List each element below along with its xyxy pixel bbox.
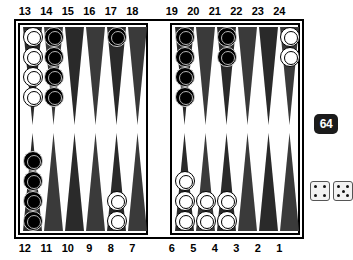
checker-stack-24[interactable] [279,27,300,127]
point-8[interactable] [106,131,127,231]
point-16[interactable] [85,27,106,127]
point-7[interactable] [127,131,148,231]
doubling-cube[interactable]: 64 [314,114,338,134]
checker-black[interactable] [23,191,43,211]
checker-white[interactable] [175,211,195,231]
point-4[interactable] [216,131,237,231]
point-label-9: 9 [79,242,101,254]
checker-ring [27,71,41,85]
checker-black[interactable] [217,47,237,67]
checker-black[interactable] [23,211,43,231]
die-1[interactable] [310,181,330,201]
checker-white[interactable] [175,191,195,211]
die-pip [346,185,349,188]
die-2[interactable] [333,181,353,201]
die-pip [342,190,345,193]
point-15[interactable] [64,27,85,127]
checker-ring [179,215,193,229]
point-3[interactable] [237,131,258,231]
checker-white[interactable] [23,27,43,47]
checker-black[interactable] [175,27,195,47]
point-label-15: 15 [57,5,79,17]
checker-white[interactable] [23,47,43,67]
checker-black[interactable] [23,171,43,191]
checker-stack-8[interactable] [106,131,127,231]
checker-stack-13[interactable] [22,27,43,127]
checker-white[interactable] [217,211,237,231]
center-bar[interactable] [148,23,170,235]
point-22[interactable] [237,27,258,127]
point-24[interactable] [279,27,300,127]
checker-white[interactable] [175,171,195,191]
quadrant-bottom-right [174,129,300,233]
point-label-18: 18 [122,5,144,17]
checker-stack-5[interactable] [195,131,216,231]
checker-black[interactable] [44,67,64,87]
checker-ring [179,71,193,85]
point-10[interactable] [64,131,85,231]
checker-white[interactable] [280,27,300,47]
checker-ring [27,155,41,169]
checker-white[interactable] [196,191,216,211]
point-6[interactable] [174,131,195,231]
checker-white[interactable] [107,191,127,211]
point-label-11: 11 [36,242,58,254]
quadrant-bottom-left [22,129,148,233]
checker-black[interactable] [23,151,43,171]
point-20[interactable] [195,27,216,127]
checker-stack-14[interactable] [43,27,64,127]
checker-stack-21[interactable] [216,27,237,127]
point-13[interactable] [22,27,43,127]
checker-white[interactable] [23,87,43,107]
checker-black[interactable] [175,47,195,67]
checker-ring [27,215,41,229]
point-label-19: 19 [161,5,183,17]
checker-white[interactable] [217,191,237,211]
checker-ring [221,195,235,209]
checker-white[interactable] [280,47,300,67]
point-14[interactable] [43,27,64,127]
die-pip [337,185,340,188]
point-triangle-22 [238,27,257,125]
checker-stack-17[interactable] [106,27,127,127]
checker-stack-19[interactable] [174,27,195,127]
point-21[interactable] [216,27,237,127]
point-triangle-9 [86,133,105,231]
point-11[interactable] [43,131,64,231]
point-12[interactable] [22,131,43,231]
checker-stack-4[interactable] [216,131,237,231]
checker-black[interactable] [44,27,64,47]
checker-black[interactable] [175,87,195,107]
point-1[interactable] [279,131,300,231]
checker-ring [111,195,125,209]
point-label-6: 6 [161,242,183,254]
point-19[interactable] [174,27,195,127]
point-17[interactable] [106,27,127,127]
point-5[interactable] [195,131,216,231]
point-18[interactable] [127,27,148,127]
point-label-1: 1 [269,242,291,254]
point-2[interactable] [258,131,279,231]
point-23[interactable] [258,27,279,127]
checker-white[interactable] [107,211,127,231]
checker-white[interactable] [23,67,43,87]
side-panel: 64 [308,19,348,239]
checker-black[interactable] [44,87,64,107]
checker-black[interactable] [44,47,64,67]
checker-ring [48,91,62,105]
checker-white[interactable] [196,211,216,231]
checker-black[interactable] [107,27,127,47]
checker-black[interactable] [217,27,237,47]
checker-black[interactable] [175,67,195,87]
checker-stack-6[interactable] [174,131,195,231]
checker-ring [221,31,235,45]
point-label-20: 20 [183,5,205,17]
point-label-2: 2 [247,242,269,254]
point-triangle-7 [128,133,147,231]
checker-stack-12[interactable] [22,131,43,231]
point-label-13: 13 [14,5,36,17]
point-label-3: 3 [226,242,248,254]
die-pip [323,185,326,188]
dice-tray[interactable] [310,181,353,201]
point-9[interactable] [85,131,106,231]
